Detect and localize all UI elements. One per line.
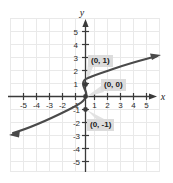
- point-label-0--1: (0, -1): [87, 119, 114, 131]
- x-tick-label-4: 4: [131, 101, 136, 110]
- x-tick-label--2: -2: [59, 101, 67, 110]
- leader-pm1: [87, 110, 104, 119]
- point-0-0: [83, 94, 88, 99]
- point-0-1: [83, 82, 88, 87]
- y-tick-label-3: 3: [74, 54, 79, 63]
- y-tick-label-4: 4: [74, 41, 79, 50]
- x-tick-label--3: -3: [46, 101, 54, 110]
- y-tick-label--3: -3: [73, 132, 81, 141]
- axes: [8, 24, 152, 172]
- y-tick-label-5: 5: [74, 28, 79, 37]
- y-tick-label-1: 1: [74, 80, 79, 89]
- point-0--1: [83, 107, 88, 112]
- y-axis-label: y: [79, 7, 85, 18]
- point-label-0-1: (0, 1): [88, 55, 113, 67]
- x-axis-arrowhead: [149, 93, 157, 99]
- point-label-0-0: (0, 0): [101, 79, 126, 91]
- y-tick-label--4: -4: [73, 145, 81, 154]
- x-tick-label--5: -5: [20, 101, 28, 110]
- x-tick-label-3: 3: [118, 101, 123, 110]
- x-axis-label: x: [160, 91, 166, 102]
- x-tick-label-1: 1: [92, 101, 97, 110]
- coordinate-plane: -5 -4 -3 -2 -1 1 2 3 4 5 5 4 3 2 1 -1 -2…: [0, 0, 173, 183]
- x-tick-label-2: 2: [105, 101, 110, 110]
- graph-figure: -5 -4 -3 -2 -1 1 2 3 4 5 5 4 3 2 1 -1 -2…: [0, 0, 173, 183]
- y-axis-arrowhead: [82, 19, 88, 27]
- y-tick-label--2: -2: [73, 119, 81, 128]
- y-tick-label-2: 2: [74, 67, 79, 76]
- y-tick-label--5: -5: [73, 158, 81, 167]
- x-tick-label--4: -4: [33, 101, 41, 110]
- x-tick-label-5: 5: [144, 101, 149, 110]
